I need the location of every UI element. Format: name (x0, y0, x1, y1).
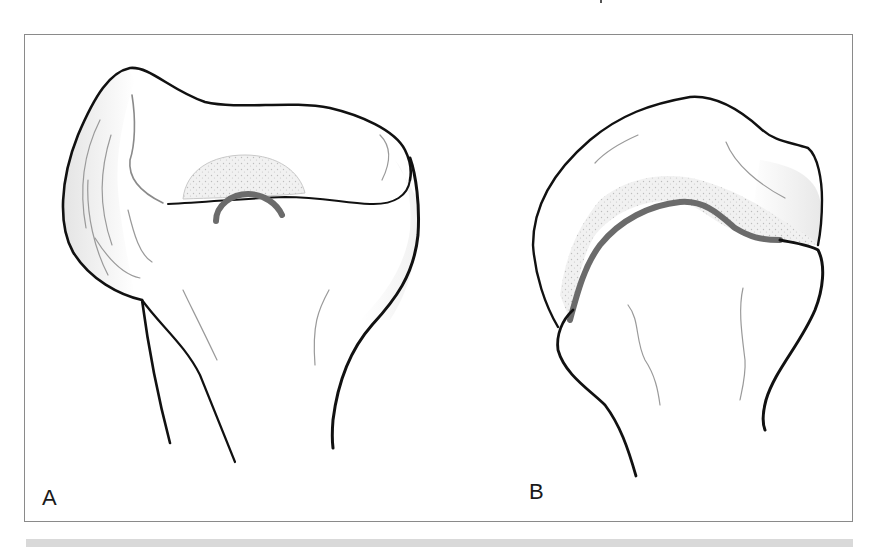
panel-b-shaft-outline-right (558, 310, 636, 476)
illustration-canvas (0, 0, 878, 547)
panel-b-detail-lines (595, 135, 785, 405)
panel-a-inner-fold (130, 95, 163, 203)
panel-b-bone (533, 97, 823, 476)
panel-a-bone (63, 68, 419, 462)
panel-b-shaft-outline-left (763, 240, 822, 430)
bottom-gray-bar (26, 539, 853, 547)
panel-label-b: B (529, 481, 544, 503)
panel-a-shading (63, 68, 135, 298)
panel-label-a: A (42, 487, 57, 509)
